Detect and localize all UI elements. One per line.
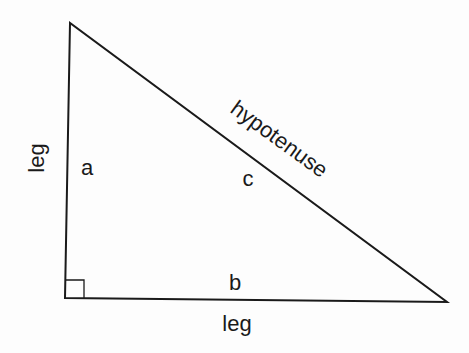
side-b-label: b <box>229 270 241 295</box>
right-triangle-diagram: leg a hypotenuse c b leg <box>0 0 469 353</box>
side-c-label: c <box>243 166 254 191</box>
side-a-label: a <box>81 155 94 180</box>
horizontal-leg-label: leg <box>222 311 251 336</box>
right-angle-marker <box>65 280 84 298</box>
triangle-shape <box>65 23 447 302</box>
triangle-svg: leg a hypotenuse c b leg <box>0 0 469 353</box>
vertical-leg-label: leg <box>24 143 49 172</box>
